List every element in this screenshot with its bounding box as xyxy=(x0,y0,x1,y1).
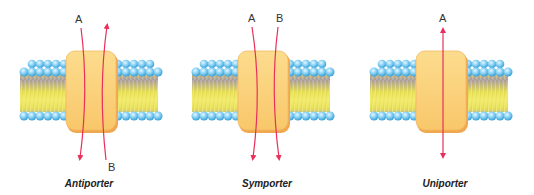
label-a: A xyxy=(75,13,82,25)
label-a: A xyxy=(439,12,446,24)
symporter-caption: Symporter xyxy=(178,178,356,189)
label-b: B xyxy=(108,161,115,173)
antiporter-illustration xyxy=(0,0,178,195)
antiporter-caption: Antiporter xyxy=(0,178,178,189)
uniporter-caption: Uniporter xyxy=(356,178,534,189)
lipid-bilayer-with-protein xyxy=(20,51,163,133)
symporter-illustration xyxy=(178,0,356,195)
label-b: B xyxy=(276,12,283,24)
symporter-panel: A B Symporter xyxy=(178,0,356,195)
lipid-bilayer-with-protein xyxy=(370,51,513,133)
uniporter-panel: A Uniporter xyxy=(356,0,534,195)
uniporter-illustration xyxy=(356,0,534,195)
label-a: A xyxy=(248,12,255,24)
lipid-bilayer-with-protein xyxy=(192,51,335,133)
antiporter-panel: A B Antiporter xyxy=(0,0,178,195)
